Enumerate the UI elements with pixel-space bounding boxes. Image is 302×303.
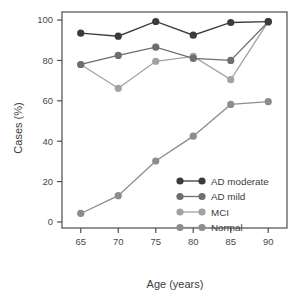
y-tick-label: 0: [48, 216, 53, 227]
line-chart: 020406080100 657075808590 AD moderateAD …: [0, 0, 302, 303]
data-point: [265, 18, 272, 25]
data-point: [115, 33, 122, 40]
chart-figure: 020406080100 657075808590 AD moderateAD …: [0, 0, 302, 303]
x-tick-label: 65: [75, 236, 86, 247]
data-point: [227, 101, 234, 108]
data-point: [227, 57, 234, 64]
x-tick-label: 90: [263, 236, 274, 247]
data-point: [265, 98, 272, 105]
legend-marker: [198, 224, 205, 231]
legend-label: MCI: [211, 207, 229, 218]
x-tick-label: 80: [188, 236, 199, 247]
legend-marker: [176, 193, 183, 200]
data-point: [115, 192, 122, 199]
legend-marker: [198, 193, 205, 200]
data-point: [115, 85, 122, 92]
data-point: [190, 133, 197, 140]
legend-label: AD moderate: [211, 176, 269, 187]
data-point: [227, 76, 234, 83]
data-point: [152, 58, 159, 65]
data-point: [115, 52, 122, 59]
data-point: [152, 157, 159, 164]
y-tick-label: 100: [37, 14, 53, 25]
data-point: [152, 18, 159, 25]
y-tick-label: 80: [42, 55, 53, 66]
legend-marker: [198, 177, 205, 184]
data-point: [77, 30, 84, 37]
data-point: [77, 210, 84, 217]
y-tick-label: 60: [42, 95, 53, 106]
data-point: [190, 55, 197, 62]
x-axis-title: Age (years): [147, 278, 204, 290]
legend-marker: [176, 177, 183, 184]
data-point: [190, 32, 197, 39]
legend-label: AD mild: [211, 191, 245, 202]
y-tick-label: 20: [42, 176, 53, 187]
chart-background: [0, 0, 302, 303]
legend-marker: [176, 224, 183, 231]
y-tick-label: 40: [42, 136, 53, 147]
data-point: [77, 61, 84, 68]
legend-marker: [176, 208, 183, 215]
data-point: [152, 44, 159, 51]
legend-marker: [198, 208, 205, 215]
x-tick-label: 70: [113, 236, 124, 247]
y-axis-title: Cases (%): [12, 102, 24, 153]
data-point: [227, 19, 234, 26]
x-tick-label: 85: [225, 236, 236, 247]
x-tick-label: 75: [150, 236, 161, 247]
legend-label: Normal: [211, 222, 243, 233]
